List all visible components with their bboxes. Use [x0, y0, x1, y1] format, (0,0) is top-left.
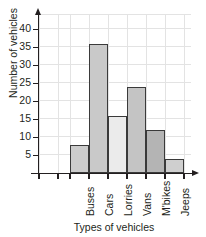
x-axis-tick [126, 174, 127, 179]
y-axis-tick [33, 65, 38, 66]
y-axis-arrow-icon [35, 8, 41, 15]
y-axis-tick-label: 20 [5, 95, 31, 106]
x-axis-label-cars: Cars [103, 194, 115, 216]
y-axis-tick-label: 10 [5, 131, 31, 142]
y-axis-tick [33, 137, 38, 138]
y-axis-tick-label: 30 [5, 59, 31, 70]
y-axis-tick [33, 83, 38, 84]
x-axis-tick [38, 174, 39, 179]
gridline-horizontal [39, 46, 191, 47]
y-axis-tick [33, 29, 38, 30]
x-axis-label-m-bikes: M'bikes [160, 181, 172, 216]
x-axis-tick [183, 174, 184, 179]
x-axis-line [31, 173, 193, 174]
y-axis-tick-label: 5 [5, 149, 31, 160]
bar-chart: Number of vehicles 510152025303540 Buses… [0, 0, 206, 237]
x-axis-tick [69, 174, 70, 179]
bar-jeeps [165, 159, 184, 173]
gridline-horizontal [39, 28, 191, 29]
x-axis-label-jeeps: Jeeps [179, 188, 191, 216]
y-axis-line [38, 14, 39, 174]
x-axis-label-vans: Vans [141, 193, 153, 216]
y-axis-tick-label: 25 [5, 77, 31, 88]
gridline-vertical [58, 14, 59, 174]
x-axis-tick [107, 174, 108, 179]
x-axis-tick [164, 174, 165, 179]
gridline-vertical [184, 14, 185, 174]
x-axis-tick [145, 174, 146, 179]
gridline-horizontal [39, 82, 191, 83]
bar-lorries [108, 116, 127, 174]
y-axis-tick-label: 35 [5, 41, 31, 52]
x-axis-arrow-icon [192, 170, 199, 176]
gridline-horizontal [39, 100, 191, 101]
y-axis-tick-label: 15 [5, 113, 31, 124]
y-axis-tick-label: 40 [5, 23, 31, 34]
x-axis-tick [57, 174, 58, 179]
gridline-vertical [165, 14, 166, 174]
bar-vans [127, 87, 146, 173]
gridline-horizontal [39, 14, 191, 15]
y-axis-tick [33, 119, 38, 120]
y-axis-tick [33, 47, 38, 48]
x-axis-label-lorries: Lorries [122, 184, 134, 216]
y-axis-tick [33, 101, 38, 102]
bar-m-bikes [146, 130, 165, 173]
y-axis-tick [33, 155, 38, 156]
bar-buses [70, 145, 89, 174]
x-axis-label-buses: Buses [84, 187, 96, 216]
bar-cars [89, 44, 108, 174]
x-axis-tick [88, 174, 89, 179]
gridline-horizontal [39, 64, 191, 65]
x-axis-title: Types of vehicles [31, 221, 197, 234]
